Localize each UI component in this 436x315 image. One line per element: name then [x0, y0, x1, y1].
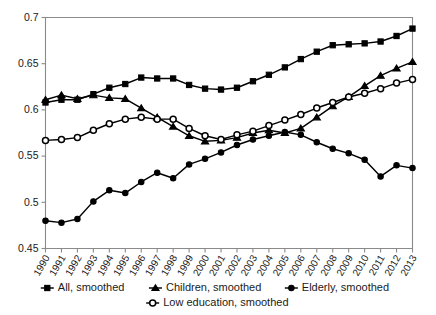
marker-circle-filled — [123, 190, 128, 195]
plot-frame — [46, 18, 413, 249]
marker-square — [45, 285, 50, 290]
marker-circle-open — [138, 114, 144, 120]
series-3 — [43, 129, 415, 225]
marker-circle-filled — [282, 129, 287, 134]
marker-circle-filled — [43, 218, 48, 223]
y-tick-label: 0.7 — [24, 11, 39, 23]
marker-circle-open — [154, 116, 160, 122]
marker-circle-open — [362, 90, 368, 96]
marker-square — [234, 85, 239, 90]
marker-circle-filled — [202, 156, 207, 161]
marker-square — [282, 65, 287, 70]
x-tick-label: 2013 — [398, 253, 419, 278]
marker-circle-filled — [394, 163, 399, 168]
marker-square — [202, 86, 207, 91]
legend-item-3[interactable]: Elderly, smoothed — [285, 281, 389, 293]
chart-canvas: 0.450.50.550.60.650.71990199119921993199… — [0, 0, 436, 315]
marker-circle-filled — [289, 285, 294, 290]
legend-label: Elderly, smoothed — [302, 281, 389, 293]
marker-circle-open — [314, 105, 320, 111]
marker-circle-filled — [346, 151, 351, 156]
legend-label: Children, smoothed — [166, 281, 261, 293]
y-axis: 0.450.50.550.60.650.7 — [18, 11, 45, 254]
marker-circle-open — [122, 116, 128, 122]
marker-circle-open — [346, 94, 352, 100]
marker-square — [139, 75, 144, 80]
marker-circle-open — [378, 86, 384, 92]
marker-square — [410, 26, 415, 31]
marker-circle-open — [106, 121, 112, 127]
legend-item-1[interactable]: All, smoothed — [41, 281, 125, 293]
legend-label: All, smoothed — [58, 281, 125, 293]
marker-circle-filled — [266, 133, 271, 138]
y-tick-label: 0.5 — [24, 196, 39, 208]
marker-square — [171, 76, 176, 81]
marker-square — [107, 85, 112, 90]
line-chart: 0.450.50.550.60.650.71990199119921993199… — [0, 0, 436, 315]
marker-square — [330, 43, 335, 48]
x-axis: 1990199119921993199419951996199719981999… — [31, 249, 419, 278]
marker-circle-filled — [378, 174, 383, 179]
marker-circle-open — [43, 137, 49, 143]
marker-circle-filled — [186, 162, 191, 167]
marker-circle-filled — [410, 165, 415, 170]
marker-circle-filled — [154, 170, 159, 175]
y-tick-label: 0.45 — [18, 242, 39, 254]
marker-square — [155, 76, 160, 81]
marker-circle-filled — [218, 150, 223, 155]
marker-square — [187, 82, 192, 87]
marker-circle-open — [170, 116, 176, 122]
series-path — [46, 62, 413, 141]
marker-circle-filled — [362, 157, 367, 162]
marker-circle-open — [298, 112, 304, 118]
marker-square — [123, 81, 128, 86]
marker-circle-open — [218, 136, 224, 142]
marker-circle-filled — [107, 188, 112, 193]
marker-square — [250, 79, 255, 84]
marker-circle-filled — [330, 146, 335, 151]
marker-circle-open — [186, 125, 192, 131]
marker-square — [394, 33, 399, 38]
marker-square — [314, 49, 319, 54]
legend-item-2[interactable]: Children, smoothed — [149, 281, 261, 293]
marker-circle-filled — [250, 137, 255, 142]
marker-square — [266, 72, 271, 77]
x-tick-label: 2010 — [350, 253, 371, 278]
series-4 — [43, 76, 416, 143]
marker-circle-open — [202, 133, 208, 139]
marker-circle-filled — [75, 216, 80, 221]
marker-circle-open — [266, 123, 272, 129]
legend: All, smoothedChildren, smoothedElderly, … — [41, 281, 389, 308]
series-path — [46, 132, 413, 223]
marker-triangle — [58, 92, 65, 98]
series-2 — [42, 59, 416, 144]
marker-circle-filled — [234, 142, 239, 147]
marker-circle-open — [74, 135, 80, 141]
marker-circle-open — [150, 300, 156, 306]
frame-rect — [46, 18, 413, 249]
marker-triangle — [138, 105, 145, 111]
legend-item-4[interactable]: Low education, smoothed — [146, 296, 288, 308]
marker-square — [346, 42, 351, 47]
marker-square — [378, 39, 383, 44]
y-tick-label: 0.65 — [18, 57, 39, 69]
marker-circle-open — [250, 128, 256, 134]
series-1 — [43, 26, 415, 105]
marker-triangle — [170, 123, 177, 129]
marker-circle-open — [90, 127, 96, 133]
marker-circle-open — [394, 80, 400, 86]
marker-triangle — [377, 72, 384, 78]
legend-label: Low education, smoothed — [163, 296, 288, 308]
y-tick-label: 0.6 — [24, 103, 39, 115]
marker-circle-open — [58, 136, 64, 142]
marker-triangle — [186, 132, 193, 138]
marker-square — [362, 41, 367, 46]
marker-circle-open — [330, 100, 336, 106]
marker-square — [218, 87, 223, 92]
marker-circle-filled — [170, 176, 175, 181]
marker-circle-filled — [59, 220, 64, 225]
marker-circle-open — [410, 76, 416, 82]
y-tick-label: 0.55 — [18, 149, 39, 161]
series-group — [42, 26, 416, 225]
marker-circle-filled — [139, 179, 144, 184]
